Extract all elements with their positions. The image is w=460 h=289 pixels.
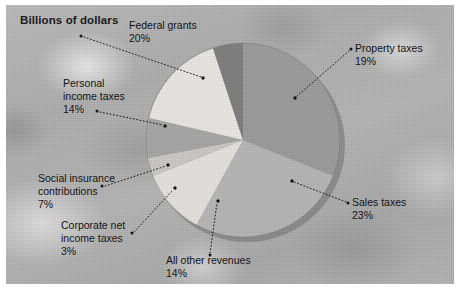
label-social-insurance-percent: 7%	[38, 198, 115, 211]
label-personal-income-taxes: Personal income taxes 14%	[63, 77, 125, 116]
label-personal-income-line1: Personal	[63, 77, 104, 89]
leader-dot-social-insurance-slice	[166, 163, 169, 166]
label-all-other-revenues-text: All other revenues	[166, 254, 251, 266]
leader-dot-sales-taxes-slice	[290, 179, 293, 182]
leader-dot-all-other-revenues-slice	[216, 199, 219, 202]
label-corporate-line2: income taxes	[61, 232, 123, 244]
leader-line-corporate	[134, 190, 173, 232]
label-personal-income-percent: 14%	[63, 103, 125, 116]
chart-title: Billions of dollars	[20, 14, 118, 26]
label-federal-grants: Federal grants 20%	[129, 19, 197, 45]
leader-dot-property-taxes-slice	[293, 96, 296, 99]
chart-image: Billions of dollars Federal grants 20% P…	[0, 0, 460, 289]
leader-dot-federal-grants-label	[80, 35, 83, 38]
label-corporate-line1: Corporate net	[61, 219, 125, 231]
label-all-other-revenues-percent: 14%	[166, 267, 251, 280]
label-personal-income-line2: income taxes	[63, 90, 125, 102]
leader-dot-property-taxes-label	[350, 48, 353, 51]
label-sales-taxes: Sales taxes 23%	[352, 196, 406, 222]
label-corporate-percent: 3%	[61, 245, 125, 258]
label-social-insurance-line1: Social insurance	[38, 172, 115, 184]
leader-dot-federal-grants-slice	[201, 76, 204, 79]
label-all-other-revenues: All other revenues 14%	[166, 254, 251, 280]
label-social-insurance-line2: contributions	[38, 185, 98, 197]
chart-canvas: Billions of dollars Federal grants 20% P…	[6, 5, 454, 284]
label-federal-grants-text: Federal grants	[129, 19, 197, 31]
label-sales-taxes-percent: 23%	[352, 209, 406, 222]
label-federal-grants-percent: 20%	[129, 32, 197, 45]
label-property-taxes-percent: 19%	[355, 55, 423, 68]
leader-dot-personal-income-slice	[163, 124, 166, 127]
leader-dot-sales-taxes-label	[347, 202, 350, 205]
label-social-insurance-contributions: Social insurance contributions 7%	[38, 172, 115, 211]
label-sales-taxes-text: Sales taxes	[352, 196, 406, 208]
leader-dot-corporate-label	[131, 232, 134, 235]
leader-dot-corporate-slice	[173, 186, 176, 189]
label-property-taxes: Property taxes 19%	[355, 42, 423, 68]
label-property-taxes-text: Property taxes	[355, 42, 423, 54]
label-corporate-net-income-taxes: Corporate net income taxes 3%	[61, 219, 125, 258]
